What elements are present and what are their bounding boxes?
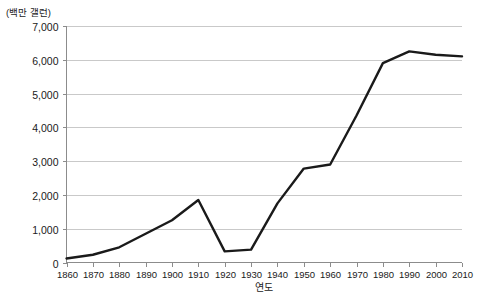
y-axis-tick-label: 5,000 xyxy=(32,89,58,101)
x-axis-tick-label: 1940 xyxy=(267,269,288,280)
x-axis-tick-label: 2010 xyxy=(452,269,473,280)
x-axis-tick-label: 1910 xyxy=(188,269,209,280)
y-axis-tick-label: 2,000 xyxy=(32,190,58,202)
x-axis-tick-label: 1980 xyxy=(373,269,394,280)
gridlines xyxy=(67,27,463,230)
y-axis-tick-label: 3,000 xyxy=(32,156,58,168)
y-axis-tick-label: 7,000 xyxy=(32,21,58,33)
x-axis-title: 연도 xyxy=(255,282,273,293)
x-axis-tick-label: 1920 xyxy=(215,269,236,280)
y-axis-tick-label: 6,000 xyxy=(32,55,58,67)
y-axis-tick-labels: 01,0002,0003,0004,0005,0006,0007,000 xyxy=(32,21,58,270)
x-axis-tick-label: 1860 xyxy=(57,269,78,280)
line-chart-figure: (백만 갤런) 01,0002,0003,0004,0005,0006,0007… xyxy=(0,0,479,300)
x-axis-tick-label: 2000 xyxy=(426,269,447,280)
x-axis-tick-labels: 1860187018801890190019101920193019401950… xyxy=(57,269,473,280)
x-axis-tick-label: 1950 xyxy=(294,269,315,280)
x-axis-tick-label: 1900 xyxy=(162,269,183,280)
consumption-line-series xyxy=(67,51,463,258)
y-axis-tick-label: 4,000 xyxy=(32,122,58,134)
y-axis-tick-label: 1,000 xyxy=(32,224,58,236)
x-axis-tick-label: 1990 xyxy=(399,269,420,280)
x-axis-tick-marks xyxy=(68,263,463,267)
x-axis-tick-label: 1930 xyxy=(241,269,262,280)
x-axis-tick-label: 1890 xyxy=(136,269,157,280)
y-axis-unit-label: (백만 갤런) xyxy=(6,7,51,18)
x-axis-tick-label: 1970 xyxy=(347,269,368,280)
x-axis-tick-label: 1960 xyxy=(320,269,341,280)
x-axis-tick-label: 1880 xyxy=(109,269,130,280)
x-axis-tick-label: 1870 xyxy=(83,269,104,280)
chart-canvas: (백만 갤런) 01,0002,0003,0004,0005,0006,0007… xyxy=(0,0,479,300)
y-axis-tick-marks xyxy=(63,27,67,264)
